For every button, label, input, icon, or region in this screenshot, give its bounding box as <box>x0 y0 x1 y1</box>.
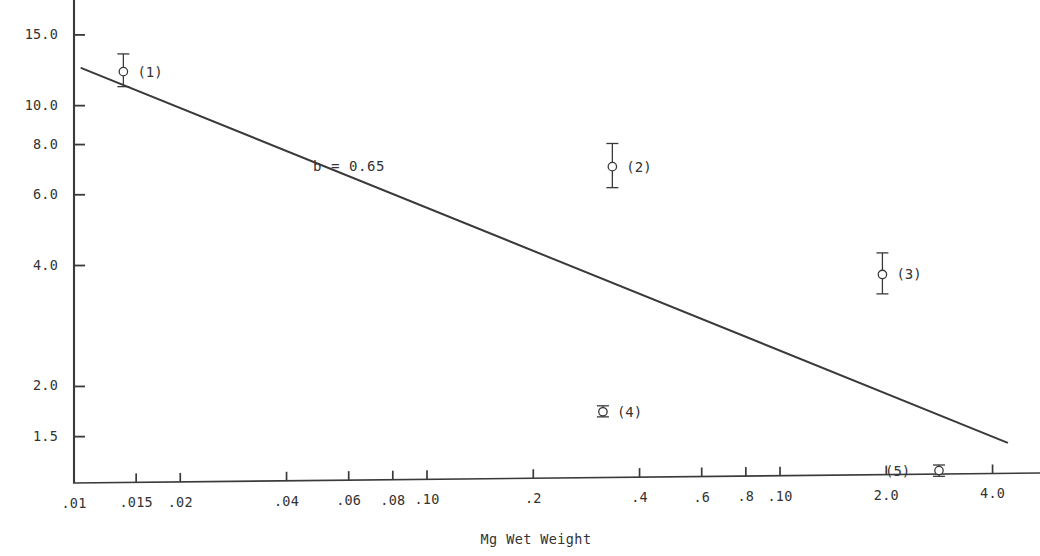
x-tick-label: .02 <box>168 496 193 510</box>
data-point <box>597 406 609 417</box>
data-points <box>117 54 945 476</box>
y-tick-label: 1.5 <box>8 430 58 444</box>
regression-line <box>81 68 1007 442</box>
x-tick-label: .10 <box>415 493 440 507</box>
y-tick-label: 15.0 <box>8 28 58 42</box>
x-tick-label: .8 <box>737 490 754 504</box>
data-point <box>117 54 129 87</box>
x-tick-label: .04 <box>274 495 299 509</box>
data-point-label: (3) <box>896 267 921 281</box>
chart-figure: 15.010.08.06.04.02.01.5 .01.015.02.04.06… <box>0 0 1040 556</box>
x-tick-label: .6 <box>693 491 710 505</box>
data-point <box>606 143 618 187</box>
y-tick-label: 8.0 <box>8 138 58 152</box>
x-tick-label: .015 <box>120 496 153 510</box>
y-tick-label: 10.0 <box>8 99 58 113</box>
y-tick-label: 2.0 <box>8 380 58 394</box>
x-axis-title: Mg Wet Weight <box>481 531 592 547</box>
y-axis-ticks <box>74 35 85 437</box>
y-tick-label: 6.0 <box>8 188 58 202</box>
data-point-label: (2) <box>626 160 651 174</box>
x-tick-label: 2.0 <box>874 489 899 503</box>
x-tick-label: .10 <box>768 490 793 504</box>
x-tick-label: .06 <box>336 494 361 508</box>
x-tick-label: 4.0 <box>980 487 1005 501</box>
data-point-label: (4) <box>617 405 642 419</box>
data-point <box>876 253 888 294</box>
x-tick-label: .4 <box>631 491 648 505</box>
x-tick-label: .08 <box>380 494 405 508</box>
axis-lines <box>73 0 1040 483</box>
y-tick-label: 4.0 <box>8 259 58 273</box>
slope-annotation: b = 0.65 <box>313 159 385 173</box>
x-axis-ticks <box>74 464 993 483</box>
data-point-label: (1) <box>137 65 162 79</box>
x-tick-label: .01 <box>62 497 87 511</box>
x-tick-label: .2 <box>525 492 542 506</box>
data-point-label: (5) <box>885 464 910 478</box>
